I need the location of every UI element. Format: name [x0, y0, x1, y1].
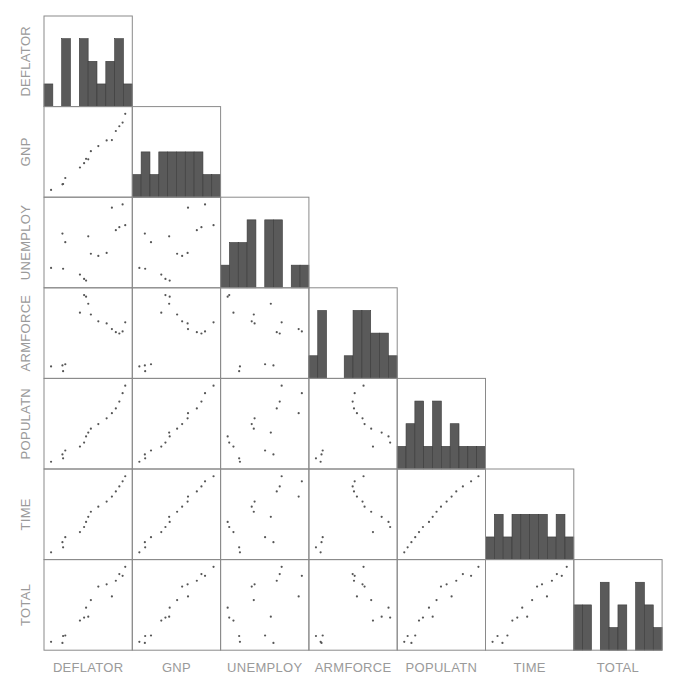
- data-point: [279, 401, 281, 403]
- data-point: [238, 635, 240, 637]
- histogram-bar: [547, 537, 556, 560]
- data-point: [298, 595, 300, 597]
- data-point: [169, 296, 171, 298]
- data-point: [276, 580, 278, 582]
- data-point: [387, 607, 389, 609]
- data-point: [356, 595, 358, 597]
- data-point: [168, 516, 170, 518]
- data-point: [253, 599, 255, 601]
- data-point: [200, 485, 202, 487]
- data-point: [238, 457, 240, 459]
- data-point: [187, 495, 189, 497]
- scatter-populatn-vs-deflator: [44, 378, 132, 469]
- data-point: [144, 364, 146, 366]
- data-point: [272, 642, 274, 644]
- data-point: [270, 516, 272, 518]
- data-point: [228, 616, 230, 618]
- data-point: [164, 441, 166, 443]
- data-point: [150, 363, 152, 365]
- data-point: [196, 331, 198, 333]
- cell-frame: [309, 469, 397, 560]
- data-point: [106, 252, 108, 254]
- data-point: [279, 485, 281, 487]
- data-point: [298, 412, 300, 414]
- data-point: [164, 294, 166, 296]
- data-point: [164, 526, 166, 528]
- column-label-armforce: ARMFORCE: [315, 660, 392, 675]
- histogram-bar: [459, 446, 468, 469]
- data-point: [64, 449, 66, 451]
- cell-frame: [397, 560, 485, 651]
- histogram-bar: [318, 310, 327, 378]
- histogram-bar: [362, 310, 371, 378]
- data-point: [212, 475, 214, 477]
- data-point: [160, 274, 162, 276]
- data-point: [521, 607, 523, 609]
- data-point: [118, 485, 120, 487]
- data-point: [353, 407, 355, 409]
- histogram-bar: [380, 333, 389, 378]
- column-label-time: TIME: [514, 660, 546, 675]
- data-point: [253, 583, 255, 585]
- data-point: [354, 392, 356, 394]
- data-point: [61, 541, 63, 543]
- data-point: [124, 113, 126, 115]
- data-point: [196, 229, 198, 231]
- data-point: [118, 226, 120, 228]
- scatter-time-vs-unemploy: [221, 469, 309, 560]
- data-point: [232, 619, 234, 621]
- data-point: [356, 412, 358, 414]
- data-point: [352, 573, 354, 575]
- data-point: [160, 531, 162, 533]
- histogram-bar: [150, 175, 159, 198]
- data-point: [144, 457, 146, 459]
- data-point: [176, 511, 178, 513]
- data-point: [264, 363, 266, 365]
- scatter-total-vs-gnp: [132, 560, 220, 651]
- histogram-bar: [203, 175, 212, 198]
- data-point: [462, 485, 464, 487]
- data-point: [97, 320, 99, 322]
- data-point: [97, 145, 99, 147]
- data-point: [187, 583, 189, 585]
- histogram-gnp: [132, 107, 220, 198]
- data-point: [200, 573, 202, 575]
- scatter-populatn-vs-unemploy: [221, 378, 309, 469]
- scatter-total-vs-populatn: [397, 560, 485, 651]
- data-point: [251, 320, 253, 322]
- histogram-bar: [141, 152, 150, 197]
- histogram-bar: [168, 152, 177, 197]
- data-point: [516, 616, 518, 618]
- data-point: [281, 566, 283, 568]
- data-point: [144, 370, 146, 372]
- scatter-total-vs-armforce: [309, 560, 397, 651]
- data-point: [389, 616, 391, 618]
- data-point: [85, 158, 87, 160]
- data-point: [298, 495, 300, 497]
- data-point: [239, 641, 241, 643]
- cell-frame: [44, 107, 132, 198]
- row-label-time: TIME: [18, 498, 33, 530]
- data-point: [414, 634, 416, 636]
- data-point: [115, 407, 117, 409]
- data-point: [106, 501, 108, 503]
- data-point: [124, 385, 126, 387]
- data-point: [50, 365, 52, 367]
- data-point: [196, 407, 198, 409]
- histogram-bar: [212, 175, 221, 198]
- data-point: [97, 506, 99, 508]
- data-point: [227, 435, 229, 437]
- data-point: [176, 253, 178, 255]
- data-point: [181, 423, 183, 425]
- data-point: [164, 278, 166, 280]
- data-point: [212, 224, 214, 226]
- data-point: [122, 330, 124, 332]
- data-point: [168, 303, 170, 305]
- data-point: [122, 392, 124, 394]
- data-point: [470, 480, 472, 482]
- data-point: [501, 642, 503, 644]
- data-point: [531, 599, 533, 601]
- data-point: [64, 536, 66, 538]
- histogram-bar: [97, 84, 106, 107]
- data-point: [410, 541, 412, 543]
